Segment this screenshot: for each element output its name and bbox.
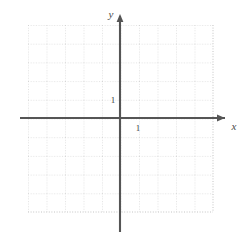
x-axis-label: x [231,120,237,132]
y-axis-label: y [108,8,114,20]
y-axis-unit-label: 1 [111,95,116,105]
coordinate-plane-svg: 1 1 y x [0,0,245,240]
y-axis-arrowhead [117,14,124,22]
x-axis-unit-label: 1 [136,123,141,133]
x-axis-arrowhead [217,115,225,122]
coordinate-plane-figure: 1 1 y x [0,0,245,240]
